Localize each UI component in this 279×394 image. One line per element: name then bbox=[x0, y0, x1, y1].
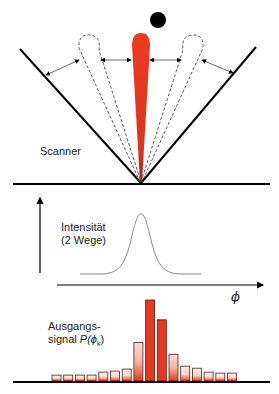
right-beam-lobe bbox=[141, 35, 203, 182]
scanner-right-wall bbox=[141, 47, 256, 183]
phi-axis-label: ϕ bbox=[231, 289, 240, 304]
bar bbox=[157, 320, 166, 381]
scanner-panel bbox=[13, 12, 270, 184]
bar bbox=[169, 354, 178, 381]
bar bbox=[122, 369, 131, 381]
intensity-label: Intensität (2 Wege) bbox=[61, 221, 106, 247]
center-beam-lobe bbox=[132, 33, 150, 182]
intensity-label-line2: (2 Wege) bbox=[61, 234, 106, 247]
bar bbox=[146, 300, 155, 381]
diagram-canvas bbox=[0, 0, 279, 394]
bar bbox=[134, 343, 143, 382]
bar bbox=[52, 375, 61, 381]
intensity-label-line1: Intensität bbox=[61, 221, 106, 234]
bar bbox=[192, 368, 201, 381]
left-beam-lobe bbox=[79, 35, 141, 182]
scanner-left-wall bbox=[20, 49, 141, 183]
bar bbox=[111, 371, 120, 381]
bar bbox=[64, 375, 73, 381]
output-label-line2: signal P(ϕk) bbox=[48, 333, 104, 350]
bar bbox=[204, 372, 213, 381]
bar bbox=[181, 366, 190, 381]
bar bbox=[75, 375, 84, 381]
bar bbox=[99, 372, 108, 381]
scanner-label: Scanner bbox=[40, 145, 81, 158]
spacing-arrow bbox=[46, 60, 79, 75]
spacing-arrow bbox=[202, 60, 233, 73]
bar bbox=[216, 373, 225, 381]
output-label-line1: Ausgangs- bbox=[48, 320, 104, 333]
target-icon bbox=[150, 12, 166, 28]
bar bbox=[87, 375, 96, 381]
bar bbox=[228, 373, 237, 381]
output-label: Ausgangs- signal P(ϕk) bbox=[48, 320, 104, 350]
